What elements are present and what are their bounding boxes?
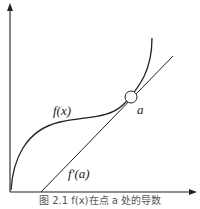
x-axis-arrow-icon [189, 189, 197, 195]
point-a-marker [125, 91, 137, 103]
derivative-label: f′(a) [68, 167, 90, 180]
function-label: f(x) [53, 104, 71, 117]
derivative-diagram [0, 0, 200, 209]
figure-caption: 图 2.1 f(x)在点 a 处的导数 [0, 196, 200, 206]
y-axis-arrow-icon [7, 3, 13, 11]
point-label: a [137, 103, 144, 116]
tangent-line [41, 56, 173, 192]
